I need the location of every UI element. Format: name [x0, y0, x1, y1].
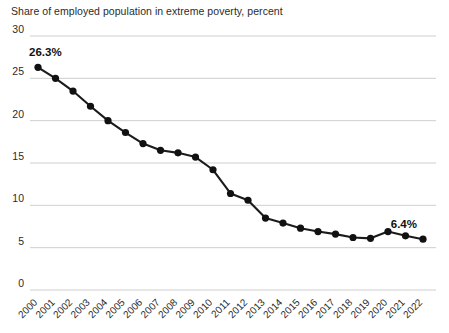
data-point	[244, 197, 251, 204]
data-point	[367, 235, 374, 242]
x-axis-tick-label: 2022	[401, 296, 425, 320]
x-axis-tick-labels: 2000200120022003200420052006200720082009…	[16, 296, 425, 320]
data-point	[69, 87, 76, 94]
poverty-share-chart: Share of employed population in extreme …	[0, 0, 449, 333]
series-line	[38, 67, 423, 239]
y-axis-tick-label: 25	[12, 65, 24, 77]
data-point	[139, 140, 146, 147]
y-axis-tick-label: 5	[18, 235, 24, 247]
data-point	[104, 117, 111, 124]
data-point	[87, 103, 94, 110]
y-axis-tick-label: 10	[12, 192, 24, 204]
data-point	[279, 220, 286, 227]
y-axis-tick-label: 20	[12, 108, 24, 120]
y-axis-tick-labels: 051015202530	[12, 23, 24, 289]
data-point	[419, 236, 426, 243]
data-point	[262, 214, 269, 221]
data-point	[192, 153, 199, 160]
y-axis-tick-label: 15	[12, 150, 24, 162]
data-point	[122, 129, 129, 136]
point-annotations: 26.3%6.4%	[29, 46, 417, 230]
data-point	[314, 228, 321, 235]
data-point	[209, 166, 216, 173]
point-annotation: 26.3%	[29, 46, 62, 58]
data-point	[332, 231, 339, 238]
data-point	[52, 75, 59, 82]
y-axis-tick-label: 0	[18, 277, 24, 289]
data-point	[349, 234, 356, 241]
data-point	[34, 64, 41, 71]
data-point	[157, 147, 164, 154]
point-annotation: 6.4%	[391, 218, 417, 230]
y-axis-tick-label: 30	[12, 23, 24, 35]
data-point	[402, 232, 409, 239]
series-polyline	[38, 67, 423, 239]
gridlines	[30, 36, 436, 290]
series-points	[34, 64, 426, 243]
data-point	[227, 190, 234, 197]
data-point	[174, 149, 181, 156]
chart-plot-area: 051015202530 200020012002200320042005200…	[0, 0, 449, 333]
data-point	[297, 225, 304, 232]
